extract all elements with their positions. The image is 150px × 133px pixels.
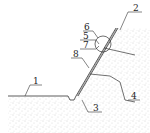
label-4: 4 (131, 91, 137, 101)
label-6: 6 (84, 22, 90, 32)
leader-2 (120, 12, 142, 30)
label-3: 3 (93, 103, 99, 113)
leader-1 (25, 85, 42, 96)
label-8: 8 (73, 49, 79, 59)
leader-8 (71, 58, 89, 68)
label-7: 7 (83, 40, 89, 50)
soil-mass (8, 28, 150, 133)
label-1: 1 (33, 76, 39, 86)
slope-diagram: 1 2 3 4 5 6 7 8 (0, 0, 150, 133)
label-2: 2 (133, 3, 139, 13)
